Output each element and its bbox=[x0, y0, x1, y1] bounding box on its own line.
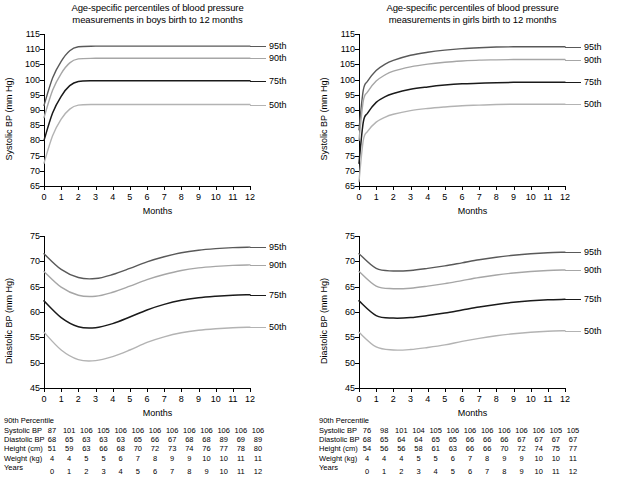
table-row-cells: 7698101104105106106106106106106105105 bbox=[373, 426, 627, 435]
table-cell: 74 bbox=[185, 444, 193, 453]
table-row-cells: 4445567899101011 bbox=[373, 454, 627, 463]
percentile-label-95th: 95th bbox=[269, 242, 287, 252]
table-cell: 58 bbox=[414, 444, 422, 453]
table-cell: 6 bbox=[451, 454, 455, 463]
percentile-leader-50th bbox=[565, 104, 581, 105]
table-cell: 66 bbox=[483, 444, 491, 453]
table-cell: 68 bbox=[116, 444, 124, 453]
table-cell: 105 bbox=[97, 426, 110, 435]
percentile-curve-90th bbox=[359, 270, 565, 289]
percentile-leader-95th bbox=[250, 46, 266, 47]
table-cell: 10 bbox=[219, 467, 227, 476]
percentile-label-90th: 90th bbox=[269, 53, 287, 63]
percentile-leader-90th bbox=[565, 60, 581, 61]
table-cell: 89 bbox=[219, 435, 227, 444]
table-cell: 11 bbox=[237, 454, 245, 463]
table-cell: 66 bbox=[151, 435, 159, 444]
table-row: Weight (kg)4445567899101011 bbox=[319, 454, 627, 463]
table-cell: 106 bbox=[200, 426, 213, 435]
table-cell: 11 bbox=[552, 467, 560, 476]
curves-boys-diastolic bbox=[0, 228, 315, 413]
table-cell: 4 bbox=[67, 454, 71, 463]
table-cell: 66 bbox=[500, 435, 508, 444]
table-cell: 10 bbox=[219, 454, 227, 463]
chart-title-boys: Age-specific percentiles of blood pressu… bbox=[0, 2, 315, 26]
table-cell: 74 bbox=[534, 444, 542, 453]
table-cell: 9 bbox=[204, 467, 208, 476]
table-cell: 78 bbox=[237, 444, 245, 453]
table-cell: 12 bbox=[569, 467, 577, 476]
table-header-girls: 90th Percentile bbox=[319, 416, 627, 425]
table-cell: 6 bbox=[119, 454, 123, 463]
table-cell: 2 bbox=[84, 467, 88, 476]
percentile-label-90th: 90th bbox=[269, 260, 287, 270]
table-cell: 66 bbox=[483, 435, 491, 444]
table-cell: 65 bbox=[449, 435, 457, 444]
table-cell: 106 bbox=[515, 426, 528, 435]
table-cell: 68 bbox=[48, 435, 56, 444]
percentile-curve-50th bbox=[359, 104, 565, 181]
table-cell: 106 bbox=[252, 426, 265, 435]
table-cell: 106 bbox=[166, 426, 179, 435]
table-header-boys: 90th Percentile bbox=[4, 416, 312, 425]
table-cell: 7 bbox=[468, 454, 472, 463]
table-cell: 106 bbox=[447, 426, 460, 435]
percentile-leader-75th bbox=[565, 299, 581, 300]
table-cell: 106 bbox=[235, 426, 248, 435]
table-cell: 106 bbox=[498, 426, 511, 435]
table-row-cells: 87101106105106106106106106106106106106 bbox=[58, 426, 312, 435]
table-cell: 61 bbox=[431, 444, 439, 453]
table-cell: 6 bbox=[468, 467, 472, 476]
table-cell: 75 bbox=[552, 444, 560, 453]
table-cell: 4 bbox=[434, 467, 438, 476]
table-cell: 89 bbox=[254, 435, 262, 444]
table-cell: 56 bbox=[380, 444, 388, 453]
table-body-girls: Systolic BP76981011041051061061061061061… bbox=[319, 426, 627, 476]
table-cell: 106 bbox=[464, 426, 477, 435]
table-cell: 10 bbox=[534, 454, 542, 463]
percentile-curve-50th bbox=[359, 331, 565, 350]
table-cell: 11 bbox=[237, 467, 245, 476]
xaxis-title-boys-systolic: Months bbox=[0, 206, 315, 216]
table-row-cells: 68656363636566676868896989 bbox=[58, 435, 312, 444]
table-cell: 4 bbox=[119, 467, 123, 476]
table-cell: 87 bbox=[48, 426, 56, 435]
table-cell: 7 bbox=[170, 467, 174, 476]
table-cell: 63 bbox=[449, 444, 457, 453]
panel-girls: Age-specific percentiles of blood pressu… bbox=[315, 0, 630, 496]
table-cell: 59 bbox=[65, 444, 73, 453]
table-cell: 9 bbox=[519, 467, 523, 476]
percentile-curve-50th bbox=[44, 327, 250, 361]
percentile-curve-95th bbox=[44, 247, 250, 279]
table-cell: 5 bbox=[136, 467, 140, 476]
table-row: Height (cm)51596366687072737476777880 bbox=[4, 444, 312, 453]
table-cell: 9 bbox=[519, 454, 523, 463]
table-cell: 1 bbox=[382, 467, 386, 476]
table-cell: 98 bbox=[380, 426, 388, 435]
table-cell: 9 bbox=[502, 454, 506, 463]
chart-title-girls-line2: measurements in girls birth to 12 months bbox=[315, 14, 630, 26]
table-cell: 63 bbox=[116, 435, 124, 444]
table-cell: 106 bbox=[149, 426, 162, 435]
blood-pressure-percentile-figure: Age-specific percentiles of blood pressu… bbox=[0, 0, 630, 496]
table-cell: 6 bbox=[153, 467, 157, 476]
table-row: Diastolic BP68656363636566676868896989 bbox=[4, 435, 312, 444]
curves-boys-systolic bbox=[0, 26, 315, 211]
table-cell: 10 bbox=[202, 454, 210, 463]
table-cell: 5 bbox=[451, 467, 455, 476]
table-body-boys: Systolic BP87101106105106106106106106106… bbox=[4, 426, 312, 476]
table-cell: 9 bbox=[170, 454, 174, 463]
percentile-label-95th: 95th bbox=[584, 42, 602, 52]
percentile-leader-95th bbox=[565, 47, 581, 48]
table-cell: 70 bbox=[500, 444, 508, 453]
table-cell: 67 bbox=[168, 435, 176, 444]
percentile-leader-90th bbox=[250, 265, 266, 266]
table-row-cells: 51596366687072737476777880 bbox=[58, 444, 312, 453]
table-cell: 10 bbox=[534, 467, 542, 476]
percentile-curve-75th bbox=[44, 81, 250, 141]
table-cell: 68 bbox=[202, 435, 210, 444]
table-cell: 72 bbox=[517, 444, 525, 453]
table-cell: 106 bbox=[183, 426, 196, 435]
data-table-girls: 90th Percentile Systolic BP7698101104105… bbox=[319, 416, 627, 476]
plot-girls-diastolic: Diastolic BP (mm Hg) 45505560657075 0123… bbox=[315, 228, 630, 413]
